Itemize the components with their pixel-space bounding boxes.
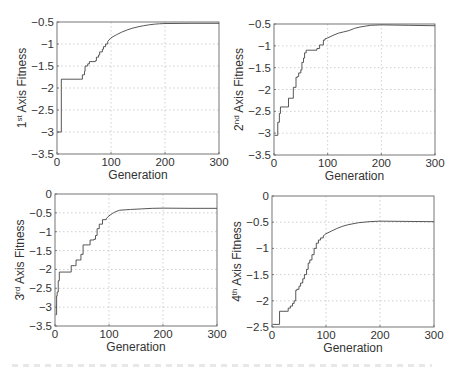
y-tick-label: 0 <box>263 190 269 202</box>
y-tick-label: −0.5 <box>246 216 269 228</box>
x-tick-label: 0 <box>269 329 275 341</box>
caption-text-fragment <box>12 364 432 367</box>
x-tick-label: 300 <box>424 329 443 341</box>
x-axis-label: Generation <box>323 341 382 355</box>
x-tick-label: 200 <box>370 329 389 341</box>
figure-4-panel-fitness: 0100200300−3.5−3−2.5−2−1.5−1−0.5Generati… <box>0 0 460 369</box>
figure-caption-cropped <box>0 362 460 369</box>
y-tick-label: −2.5 <box>246 321 269 333</box>
fitness-curve <box>273 221 434 324</box>
x-tick-label: 100 <box>316 329 335 341</box>
y-tick-label: −1 <box>256 242 269 254</box>
y-tick-label: −1.5 <box>246 269 269 281</box>
y-axis-label: 4th Axis Fitness <box>230 221 244 302</box>
subplot-4th-axis-fitness: 0100200300−2.5−2−1.5−1−0.50Generation4th… <box>0 0 460 369</box>
y-tick-label: −2 <box>256 295 269 307</box>
axes-box <box>272 196 434 327</box>
